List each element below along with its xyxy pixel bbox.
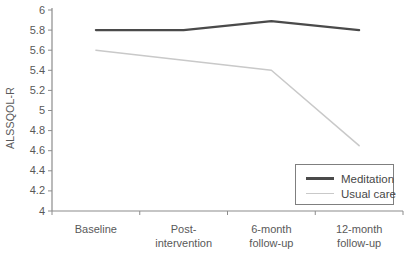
legend: Meditation Usual care: [295, 164, 394, 205]
y-tick-label: 5.8: [30, 24, 45, 36]
series-line-usual-care: [96, 50, 359, 145]
y-tick-label: 5.6: [30, 44, 45, 56]
y-tick-label: 4.8: [30, 124, 45, 136]
x-category-label: 6-monthfollow-up: [249, 223, 293, 249]
chart-canvas: 44.24.44.64.855.25.45.65.86BaselinePost-…: [0, 0, 408, 253]
y-tick-label: 4.4: [30, 164, 45, 176]
y-tick-label: 6: [39, 4, 45, 16]
y-axis-title: ALSSQOL-R: [4, 87, 16, 149]
x-category-label: Baseline: [75, 223, 117, 235]
y-tick-label: 4: [39, 205, 45, 217]
usual-care-line-swatch: [306, 193, 334, 195]
y-tick-label: 5.2: [30, 84, 45, 96]
legend-label-meditation: Meditation: [341, 173, 394, 185]
y-tick-label: 4.2: [30, 184, 45, 196]
legend-item-meditation: Meditation: [306, 171, 393, 186]
alsqol-line-chart-figure: 44.24.44.64.855.25.45.65.86BaselinePost-…: [0, 0, 408, 253]
x-category-label: 12-monthfollow-up: [336, 223, 382, 249]
y-tick-label: 4.6: [30, 144, 45, 156]
meditation-line-swatch: [306, 177, 334, 179]
series-line-meditation: [96, 21, 359, 30]
y-tick-label: 5.4: [30, 64, 45, 76]
legend-item-usual-care: Usual care: [306, 186, 393, 201]
x-category-label: Post-intervention: [155, 223, 212, 249]
legend-label-usual-care: Usual care: [341, 188, 396, 200]
y-tick-label: 5: [39, 104, 45, 116]
